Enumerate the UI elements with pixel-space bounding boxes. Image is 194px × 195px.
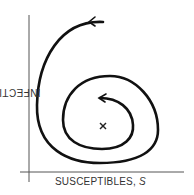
- x-axis-label-text: SUSCEPTIBLES,: [55, 176, 136, 187]
- phase-plane-diagram: INFECTIVES, I SUSCEPTIBLES, S: [0, 0, 194, 195]
- x-axis-label: SUSCEPTIBLES, S: [55, 176, 146, 187]
- equilibrium-point-icon: [100, 123, 106, 129]
- diagram-graphics: [0, 0, 194, 195]
- spiral-trajectory: [37, 22, 158, 163]
- y-axis-label: INFECTIVES, I: [3, 0, 25, 195]
- x-axis-variable: S: [139, 176, 146, 187]
- y-axis-variable: I: [0, 86, 40, 97]
